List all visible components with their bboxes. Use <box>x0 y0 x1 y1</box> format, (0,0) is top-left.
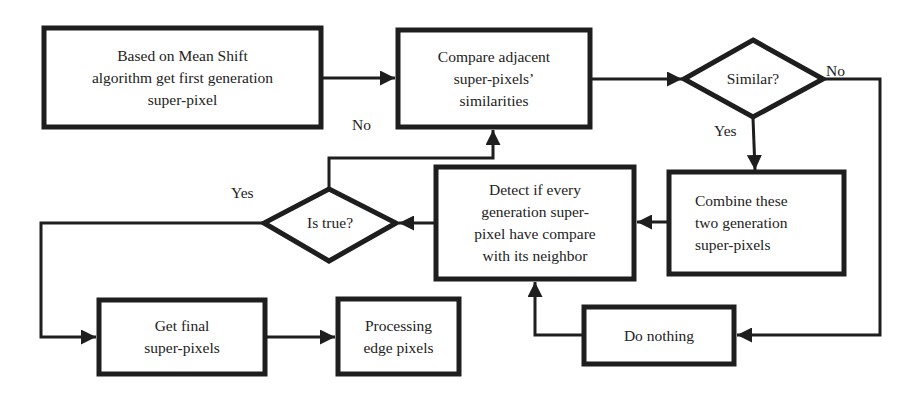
similar-no-label: No <box>826 62 845 80</box>
compare-text: Compare adjacent super-pixels’ similarit… <box>400 32 588 125</box>
processing-text: Processing edge pixels <box>340 301 457 372</box>
detect-text: Detect if every generation super- pixel … <box>438 169 632 277</box>
istrue-yes-label: Yes <box>231 184 254 202</box>
is-true-text: Is true? <box>284 210 376 236</box>
combine-text: Combine these two generation super-pixel… <box>695 174 840 272</box>
mean-shift-text: Based on Mean Shift algorithm get first … <box>46 30 319 125</box>
do-nothing-text: Do nothing <box>586 309 732 362</box>
similar-yes-label: Yes <box>714 122 737 140</box>
istrue-no-label: No <box>352 116 371 134</box>
final-text: Get final super-pixels <box>101 302 263 372</box>
similar-text: Similar? <box>700 66 806 92</box>
